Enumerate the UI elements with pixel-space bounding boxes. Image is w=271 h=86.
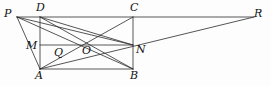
point-label-B: B (130, 70, 138, 81)
point-label-M: M (26, 40, 37, 51)
segment-A-R (40, 17, 254, 69)
segment-D-N (40, 17, 133, 45)
point-label-P: P (4, 8, 11, 19)
geometry-figure: P D C R M N O Q A B (0, 0, 271, 86)
point-label-Q: Q (54, 47, 63, 58)
point-label-D: D (36, 2, 45, 13)
point-label-A: A (35, 70, 43, 81)
point-label-C: C (130, 2, 138, 13)
point-label-N: N (136, 44, 146, 55)
point-label-R: R (254, 8, 262, 19)
point-label-O: O (82, 45, 91, 56)
